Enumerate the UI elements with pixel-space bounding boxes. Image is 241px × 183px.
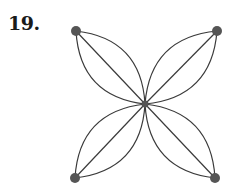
vertex-center bbox=[142, 101, 149, 108]
vertex-top-right bbox=[212, 26, 222, 36]
multigraph-diagram bbox=[0, 0, 241, 183]
edge-bottom-right-center-1 bbox=[145, 104, 215, 178]
vertex-bottom-left bbox=[70, 173, 80, 183]
edge-top-left-center-1 bbox=[76, 31, 145, 104]
edge-top-right-center-1 bbox=[145, 31, 217, 104]
edge-bottom-left-center-1 bbox=[75, 104, 145, 178]
vertex-bottom-right bbox=[210, 173, 220, 183]
vertex-top-left bbox=[71, 26, 81, 36]
